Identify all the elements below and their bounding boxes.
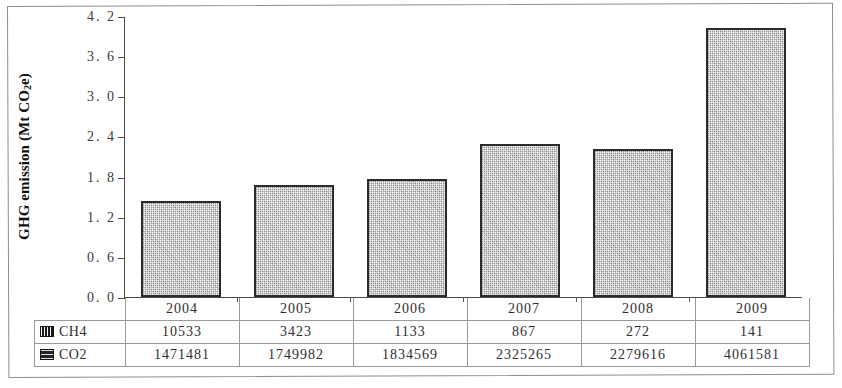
co2-legend-icon	[40, 349, 54, 360]
table-row: CH41053334231133867272141	[35, 321, 810, 344]
y-axis-tick-5	[118, 218, 125, 219]
table-cell-CH4-2007: 867	[467, 321, 581, 344]
table-cell-CO2-2004: 1471481	[125, 344, 239, 367]
table-corner-cell	[35, 298, 126, 321]
table-header-year-2005: 2005	[239, 298, 353, 321]
y-axis-tick-label-4: 1. 8	[54, 171, 116, 185]
y-axis-line	[124, 17, 125, 298]
y-axis-title-tail: e)	[16, 73, 32, 85]
y-axis-title-main: GHG emission (Mt CO	[16, 90, 32, 240]
table-series-label: CO2	[59, 347, 87, 362]
y-axis-tick-label-2: 3. 0	[54, 90, 116, 104]
y-axis-tick-1	[118, 57, 125, 58]
y-axis-tick-0	[118, 17, 125, 18]
table-series-cell-CO2: CO2	[35, 344, 126, 367]
y-axis-tick-label-6: 0. 6	[54, 251, 116, 265]
table-cell-CO2-2009: 4061581	[695, 344, 809, 367]
y-axis-tick-label-1: 3. 6	[54, 50, 116, 64]
y-axis-title: GHG emission (Mt CO2e)	[16, 37, 33, 277]
y-axis-title-subscript: 2	[22, 85, 33, 90]
plot-area	[124, 17, 802, 298]
bar-2008	[593, 149, 673, 297]
table-cell-CO2-2006: 1834569	[353, 344, 467, 367]
y-axis-tick-4	[118, 178, 125, 179]
ghg-emission-figure: GHG emission (Mt CO2e) 4. 23. 63. 02. 41…	[0, 0, 842, 388]
table-cell-CO2-2008: 2279616	[581, 344, 695, 367]
table-cell-CH4-2008: 272	[581, 321, 695, 344]
table-series-label: CH4	[59, 324, 87, 339]
table-cell-CH4-2009: 141	[695, 321, 809, 344]
y-axis-tick-label-0: 4. 2	[54, 10, 116, 24]
bar-2006	[367, 179, 447, 297]
data-table: 200420052006200720082009CH41053334231133…	[34, 298, 810, 367]
table-header-year-2008: 2008	[581, 298, 695, 321]
table-cell-CH4-2005: 3423	[239, 321, 353, 344]
bar-2009	[706, 28, 786, 297]
table-header-year-2006: 2006	[353, 298, 467, 321]
table-cell-CH4-2004: 10533	[125, 321, 239, 344]
ch4-legend-icon	[40, 326, 54, 337]
bar-2007	[480, 144, 560, 297]
y-axis-tick-labels: 4. 23. 63. 02. 41. 81. 20. 60. 0	[48, 17, 116, 298]
y-axis-tick-6	[118, 258, 125, 259]
y-axis-tick-2	[118, 97, 125, 98]
table-header-year-2004: 2004	[125, 298, 239, 321]
bar-2004	[141, 201, 221, 297]
table-header-row: 200420052006200720082009	[35, 298, 810, 321]
table-cell-CO2-2007: 2325265	[467, 344, 581, 367]
table-series-cell-CH4: CH4	[35, 321, 126, 344]
bar-2005	[254, 185, 334, 297]
table-header-year-2007: 2007	[467, 298, 581, 321]
y-axis-tick-label-5: 1. 2	[54, 211, 116, 225]
table-cell-CH4-2006: 1133	[353, 321, 467, 344]
table-header-year-2009: 2009	[695, 298, 809, 321]
y-axis-tick-3	[118, 137, 125, 138]
table-row: CO21471481174998218345692325265227961640…	[35, 344, 810, 367]
data-table-body: 200420052006200720082009CH41053334231133…	[35, 298, 810, 367]
table-cell-CO2-2005: 1749982	[239, 344, 353, 367]
y-axis-tick-label-3: 2. 4	[54, 130, 116, 144]
